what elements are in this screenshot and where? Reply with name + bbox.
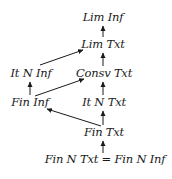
node-it-n-inf: It N Inf: [10, 68, 51, 80]
node-fin-n-txt-equals-fin-n-inf: Fin N Txt = Fin N Inf: [45, 154, 166, 166]
node-fin-txt: Fin Txt: [84, 127, 124, 139]
node-consv-txt: Consv Txt: [76, 68, 132, 80]
node-it-n-txt: It N Txt: [82, 97, 126, 109]
arrow-fin-txt-to-fin-inf: [47, 109, 101, 126]
inclusion-diagram: Lim Inf Lim Txt It N Inf Consv Txt Fin I…: [0, 0, 172, 179]
arrow-fin-inf-to-consv-txt: [35, 79, 84, 96]
node-lim-txt: Lim Txt: [81, 39, 124, 51]
arrow-it-n-inf-to-lim-txt: [40, 50, 83, 65]
node-lim-inf: Lim Inf: [83, 12, 124, 24]
node-fin-inf: Fin Inf: [11, 97, 49, 109]
